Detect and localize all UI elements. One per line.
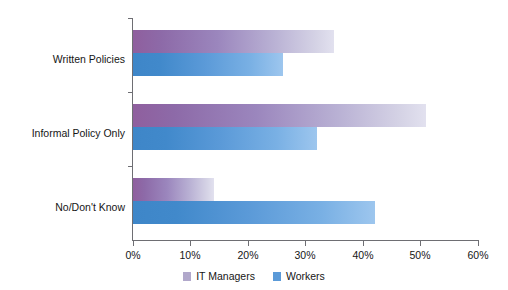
x-axis-tick-10 [190,241,191,246]
bar-workers-informal-policy-only [133,127,317,150]
bar-it-managers-no-dont-know [133,178,214,201]
x-axis-label-text: 30% [294,249,315,261]
y-axis-label-written-policies: Written Policies [0,53,125,65]
x-axis-label-40: 40% [343,249,383,261]
y-axis-tick-top [128,18,133,19]
x-axis-label-20: 20% [228,249,268,261]
x-axis-label-10: 10% [170,249,210,261]
y-axis-label-informal-policy-only: Informal Policy Only [0,127,125,139]
x-axis-tick-50 [420,241,421,246]
y-axis-tick-1 [128,92,133,93]
x-axis-label-text: 50% [409,249,430,261]
legend-label-workers: Workers [286,270,325,282]
x-axis-tick-60 [478,241,479,246]
x-axis-label-text: 20% [237,249,258,261]
x-axis-tick-0 [133,241,134,246]
legend-swatch-it-managers-icon [183,272,191,281]
bar-it-managers-written-policies [133,30,334,53]
legend-swatch-workers-icon [273,272,281,281]
x-axis-label-30: 30% [285,249,325,261]
bar-it-managers-informal-policy-only [133,104,426,127]
chart-legend: IT Managers Workers [0,270,508,282]
x-axis-label-text: 10% [179,249,200,261]
legend-label-it-managers: IT Managers [196,270,255,282]
bar-group-written-policies [133,30,478,76]
x-axis-label-50: 50% [400,249,440,261]
legend-item-workers[interactable]: Workers [273,270,325,282]
x-axis-label-text: 0% [125,249,140,261]
category-label-text: No/Don't Know [55,201,125,213]
category-label-text: Written Policies [53,53,125,65]
bar-chart: Written Policies Informal Policy Only No… [0,0,508,290]
bar-group-informal-policy-only [133,104,478,150]
x-axis-tick-30 [305,241,306,246]
x-axis-tick-20 [248,241,249,246]
legend-item-it-managers[interactable]: IT Managers [183,270,255,282]
x-axis-label-0: 0% [113,249,153,261]
x-axis-label-60: 60% [458,249,498,261]
y-axis-tick-2 [128,166,133,167]
x-axis-label-text: 40% [352,249,373,261]
x-axis-label-text: 60% [467,249,488,261]
category-label-text: Informal Policy Only [32,127,125,139]
y-axis-label-no-dont-know: No/Don't Know [0,201,125,213]
bar-workers-written-policies [133,53,283,76]
bar-group-no-dont-know [133,178,478,224]
x-axis-tick-40 [363,241,364,246]
bar-workers-no-dont-know [133,201,375,224]
